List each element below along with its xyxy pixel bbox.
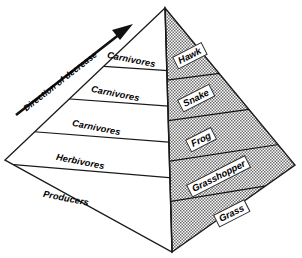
ecological-pyramid-figure: Carnivores Carnivores Carnivores Herbivo… (0, 0, 302, 258)
pyramid-graphic (0, 0, 302, 258)
